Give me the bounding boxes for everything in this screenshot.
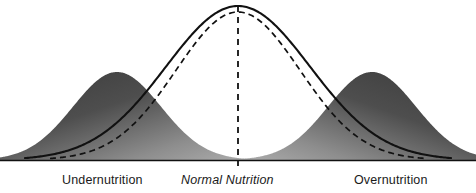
label-normal-nutrition: Normal Nutrition xyxy=(181,174,274,187)
curve-group xyxy=(0,6,476,168)
distribution-plot xyxy=(0,0,476,193)
label-undernutrition: Undernutrition xyxy=(62,174,143,187)
curve-undernutrition xyxy=(0,72,260,160)
label-overnutrition: Overnutrition xyxy=(354,174,428,187)
nutrition-distribution-figure: Undernutrition Normal Nutrition Overnutr… xyxy=(0,0,476,193)
